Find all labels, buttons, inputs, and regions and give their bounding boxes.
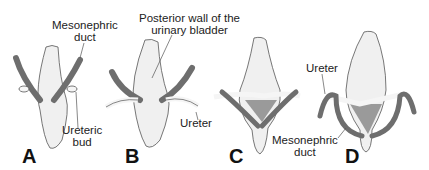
panel-label-d: D [345,145,359,168]
ureter-label-d: Ureter [306,62,338,74]
label-line: duct [272,146,338,158]
posterior-wall-label: Posterior wall of the urinary bladder [139,12,240,36]
panel-label-a: A [22,145,36,168]
label-line: Posterior wall of the [139,12,240,24]
label-line: Mesonephric [272,134,338,146]
label-line: Mesonephric [52,19,118,31]
ureter-label-b: Ureter [180,117,212,129]
ureteric-bud-label: Ureteric bud [62,124,102,148]
panel-label-c: C [229,145,243,168]
label-line: duct [52,31,118,43]
mesonephric-duct-label-a: Mesonephric duct [52,19,118,43]
panel-b-figure [106,35,198,147]
label-line: Ureteric [62,124,102,136]
mesonephric-duct-label-d: Mesonephric duct [272,134,338,158]
label-line: bud [62,136,102,148]
label-line: urinary bladder [139,24,240,36]
panel-label-b: B [125,145,139,168]
